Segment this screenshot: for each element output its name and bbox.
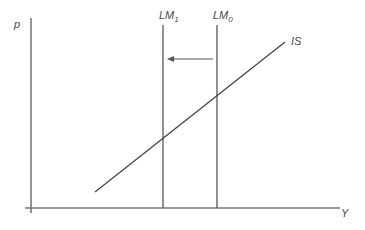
lm1-label-main: LM <box>159 9 175 21</box>
lm0-label-subscript: 0 <box>228 15 233 24</box>
lm1-curve-label: LM1 <box>159 9 179 24</box>
is-lm-diagram: p Y LM1 LM0 IS <box>0 0 365 230</box>
lm0-label-main: LM <box>213 9 229 21</box>
lm1-label-subscript: 1 <box>174 15 178 24</box>
leftward-shift-arrow-head <box>167 56 174 62</box>
diagram-canvas: p Y LM1 LM0 IS <box>0 0 365 230</box>
price-axis-label: p <box>13 18 20 30</box>
is-curve <box>95 42 285 192</box>
lm0-curve-label: LM0 <box>213 9 233 24</box>
is-curve-label: IS <box>291 35 302 47</box>
output-axis-label: Y <box>341 207 349 219</box>
